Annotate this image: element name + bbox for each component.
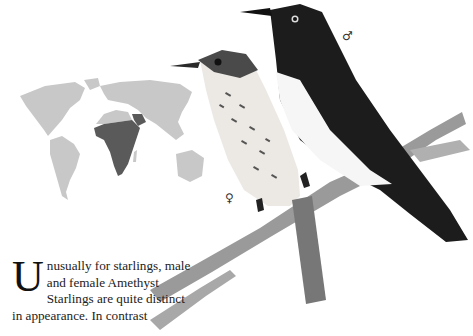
drop-cap: U bbox=[12, 260, 44, 294]
map-north-america bbox=[20, 82, 85, 136]
map-south-america bbox=[50, 136, 80, 200]
map-range-africa bbox=[94, 120, 140, 176]
book-page: ♂ ♀ Unusually for starlings, male and fe… bbox=[0, 0, 473, 336]
body-text: Unusually for starlings, male and female… bbox=[12, 258, 197, 324]
female-symbol-icon: ♀ bbox=[225, 192, 234, 204]
male-symbol-icon: ♂ bbox=[342, 30, 353, 42]
